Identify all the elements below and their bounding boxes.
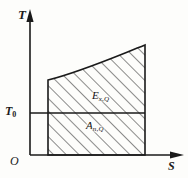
exergy-region-label: Ex,Q [92,90,109,101]
exergy-region-label-subscript: x,Q [99,95,110,103]
origin-label: O [10,155,19,167]
t-axis-arrowhead [26,9,33,22]
t0-axis-label-subscript: 0 [12,110,16,119]
s-axis-label: S [168,160,175,172]
anergy-region-label-subscript: n,Q [93,125,104,133]
s-axis-arrowhead [170,152,184,159]
anergy-region-label-base: A [86,119,93,131]
exergy-region-label-base: E [92,89,99,101]
t-axis-label: T [18,8,26,21]
anergy-region-fill [40,105,155,165]
anergy-region-label: An,Q [86,120,104,131]
ts-diagram-figure: T T0 O S Ex,Q An,Q [0,0,188,178]
t0-axis-label: T0 [5,105,16,117]
